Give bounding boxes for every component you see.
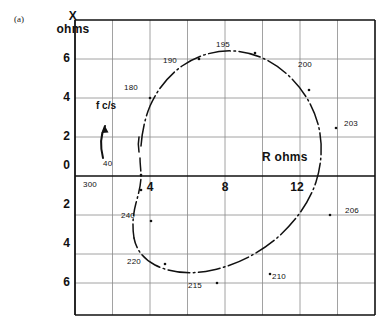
x-axis-title: R ohms — [262, 150, 308, 164]
frequency-direction-label: f c/s — [96, 100, 116, 111]
frequency-label: 40 — [103, 159, 112, 168]
y-tick-label: 2 — [52, 197, 70, 211]
frequency-label: 240 — [121, 211, 135, 220]
frequency-label: 200 — [298, 60, 312, 69]
y-tick-label: 4 — [52, 236, 70, 250]
x-tick-label: 8 — [216, 180, 234, 194]
y-axis-title-unit: ohms — [56, 22, 89, 36]
frequency-label: 220 — [127, 257, 141, 266]
frequency-label: 190 — [163, 56, 177, 65]
frequency-label: 210 — [272, 272, 286, 281]
y-tick-label: 6 — [52, 51, 70, 65]
frequency-label: 206 — [345, 206, 359, 215]
x-tick-label: 12 — [288, 180, 306, 194]
y-axis-title: X ohms — [52, 10, 94, 36]
frequency-label: 215 — [188, 281, 202, 290]
frequency-direction-arrow-icon — [101, 126, 109, 158]
y-tick-label: 4 — [52, 90, 70, 104]
y-axis-title-symbol: X — [69, 9, 77, 23]
panel-label: (a) — [14, 14, 24, 24]
frequency-label: 203 — [344, 119, 358, 128]
frequency-label: 300 — [83, 180, 97, 189]
y-tick-label: 6 — [52, 275, 70, 289]
x-tick-label: 4 — [141, 180, 159, 194]
frequency-label: 180 — [124, 83, 138, 92]
y-tick-label: 0 — [52, 158, 70, 172]
figure-panel: (a) X ohms R ohms — [0, 0, 382, 334]
y-tick-label: 2 — [52, 129, 70, 143]
locus-point-markers — [140, 52, 338, 285]
frequency-label: 195 — [216, 40, 230, 49]
